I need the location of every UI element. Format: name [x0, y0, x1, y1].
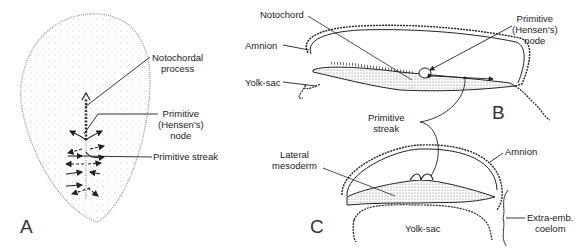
diagram-canvas [0, 0, 583, 251]
label-line: Lateral [272, 149, 317, 160]
label-line: (Hensen's) [512, 24, 558, 35]
embryo-disc-c [347, 180, 495, 205]
label-notochordal-process: Notochordal process [152, 52, 203, 74]
hensens-node-b [419, 68, 431, 78]
label-hensens-node-a: Primitive (Hensen's) node [158, 108, 204, 141]
label-line: node [512, 35, 558, 46]
label-line: node [158, 130, 204, 141]
label-hensens-node-b: Primitive (Hensen's) node [512, 13, 558, 46]
label-line: coelom [527, 223, 573, 234]
panel-b-sagittal-section [283, 16, 550, 120]
leader-amnion-b [283, 45, 309, 50]
label-amnion-b: Amnion [245, 40, 277, 51]
label-line: process [152, 63, 203, 74]
label-yolk-sac-b: Yolk-sac [245, 77, 281, 88]
label-extra-emb-coelom: Extra-emb. coelom [527, 212, 573, 234]
label-notochord: Notochord [260, 9, 304, 20]
label-line: Primitive [512, 13, 558, 24]
leader-primitive-streak-c [420, 122, 438, 180]
label-line: Primitive [368, 112, 404, 123]
label-primitive-streak-a: Primitive streak [153, 151, 218, 162]
leader-hensens-node-b [430, 26, 512, 70]
label-line: Extra-emb. [527, 212, 573, 223]
label-line: streak [368, 123, 404, 134]
label-line: Notochordal [152, 52, 203, 63]
label-line: (Hensen's) [158, 119, 204, 130]
leader-yolk-sac-b [283, 82, 316, 86]
panel-a-embryonic-disc [21, 14, 158, 222]
panel-letter-a: A [20, 216, 33, 238]
label-line: Primitive [158, 108, 204, 119]
label-yolk-sac-c: Yolk-sac [405, 223, 441, 234]
label-amnion-c: Amnion [505, 146, 537, 157]
label-lateral-mesoderm: Lateral mesoderm [272, 149, 317, 171]
panel-letter-c: C [310, 216, 324, 238]
label-line: mesoderm [272, 160, 317, 171]
label-primitive-streak-shared: Primitive streak [368, 112, 404, 134]
panel-letter-b: B [492, 102, 505, 124]
leader-amnion-c [490, 153, 503, 162]
